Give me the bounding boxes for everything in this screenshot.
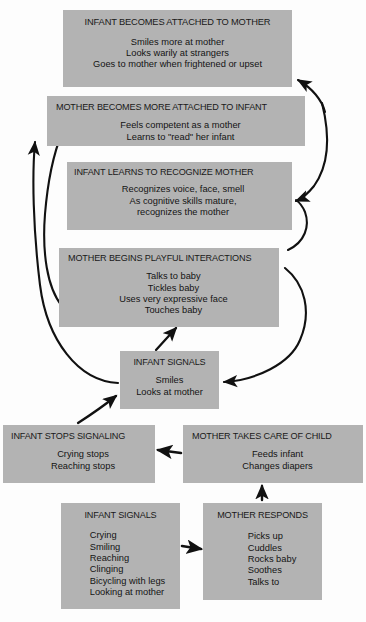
- box-lines: Picks up Cuddles Rocks baby Soothes Talk…: [229, 531, 297, 588]
- box-line: Changes diapers: [242, 461, 312, 472]
- box-line: Tickles baby: [148, 283, 199, 294]
- box-infant-becomes-attached-to-mother: INFANT BECOMES ATTACHED TO MOTHER Smiles…: [63, 10, 292, 87]
- box-mother-becomes-more-attached-to-infant: MOTHER BECOMES MORE ATTACHED TO INFANT F…: [47, 96, 305, 146]
- box-mother-begins-playful-interactions: MOTHER BEGINS PLAYFUL INTERACTIONS Talks…: [59, 248, 279, 327]
- box-line: Recognizes voice, face, smell: [122, 184, 244, 195]
- box-line: Uses very expressive face: [119, 294, 228, 305]
- box-infant-signals-middle: INFANT SIGNALS Smiles Looks at mother: [120, 351, 219, 409]
- box-title: MOTHER RESPONDS: [217, 510, 308, 520]
- box-line: Cuddles: [248, 543, 282, 554]
- box-lines: Crying Smiling Reaching Clinging Bicycli…: [76, 530, 165, 598]
- box-lines: Smiles Looks at mother: [136, 375, 203, 398]
- box-title: MOTHER BEGINS PLAYFUL INTERACTIONS: [68, 253, 251, 263]
- box-line: Smiling: [90, 542, 120, 553]
- box-title: INFANT STOPS SIGNALING: [11, 431, 125, 441]
- box-line: As cognitive skills mature,: [130, 196, 237, 207]
- box-line: Crying: [90, 530, 117, 541]
- box-infant-learns-to-recognize-mother: INFANT LEARNS TO RECOGNIZE MOTHER Recogn…: [67, 162, 292, 230]
- box-line: Touches baby: [145, 305, 202, 316]
- box-line: Reaching: [90, 553, 129, 564]
- box-lines: Feeds infant Changes diapers: [242, 449, 312, 472]
- box-line: Reaching stops: [51, 461, 115, 472]
- box-title: MOTHER BECOMES MORE ATTACHED TO INFANT: [56, 102, 267, 112]
- box-line: Talks to baby: [146, 271, 200, 282]
- box-line: Feels competent as a mother: [120, 120, 240, 131]
- box-lines: Feels competent as a mother Learns to "r…: [120, 120, 240, 143]
- box-line: Crying stops: [57, 449, 109, 460]
- box-line: Goes to mother when frightened or upset: [93, 59, 262, 70]
- box-lines: Smiles more at mother Looks warily at st…: [93, 37, 262, 71]
- box-lines: Recognizes voice, face, smell As cogniti…: [122, 184, 244, 218]
- box-line: Looking at mother: [90, 587, 164, 598]
- box-line: Talks to: [248, 577, 280, 588]
- box-line: Learns to "read" her infant: [127, 132, 235, 143]
- box-line: Bicycling with legs: [90, 576, 165, 587]
- box-line: Looks at mother: [136, 387, 203, 398]
- box-line: Rocks baby: [248, 554, 297, 565]
- box-line: Clinging: [90, 564, 124, 575]
- box-line: Feeds infant: [252, 449, 303, 460]
- diagram-canvas: INFANT BECOMES ATTACHED TO MOTHER Smiles…: [0, 0, 366, 622]
- box-line: recognizes the mother: [137, 207, 229, 218]
- box-line: Looks warily at strangers: [126, 48, 229, 59]
- box-mother-responds: MOTHER RESPONDS Picks up Cuddles Rocks b…: [203, 503, 322, 600]
- arrow-signals-bottom-to-responds: [182, 546, 201, 549]
- box-infant-stops-signaling: INFANT STOPS SIGNALING Crying stops Reac…: [3, 425, 155, 483]
- box-title: INFANT SIGNALS: [84, 510, 156, 520]
- box-title: INFANT SIGNALS: [133, 357, 205, 367]
- box-title: INFANT BECOMES ATTACHED TO MOTHER: [85, 17, 271, 28]
- arrow-stops-to-signals: [78, 396, 116, 423]
- box-mother-takes-care-of-child: MOTHER TAKES CARE OF CHILD Feeds infant …: [183, 425, 363, 483]
- box-lines: Talks to baby Tickles baby Uses very exp…: [119, 271, 228, 316]
- arrow-signals-to-playful-up: [156, 328, 176, 350]
- box-title: MOTHER TAKES CARE OF CHILD: [192, 431, 332, 441]
- box-title: INFANT LEARNS TO RECOGNIZE MOTHER: [74, 167, 253, 177]
- box-lines: Crying stops Reaching stops: [51, 449, 115, 472]
- box-infant-signals-bottom: INFANT SIGNALS Crying Smiling Reaching C…: [61, 503, 180, 609]
- arrow-takes-care-to-stops: [158, 450, 181, 453]
- box-line: Picks up: [248, 531, 283, 542]
- box-line: Soothes: [248, 565, 282, 576]
- box-line: Smiles more at mother: [131, 37, 225, 48]
- box-line: Smiles: [156, 375, 184, 386]
